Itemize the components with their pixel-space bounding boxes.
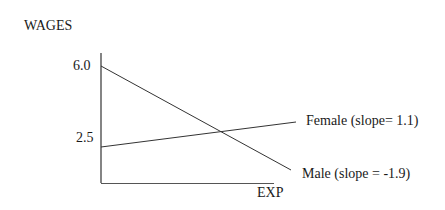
y-tick-6: 6.0 <box>73 58 91 74</box>
male-line <box>101 66 291 170</box>
male-series-label: Male (slope = -1.9) <box>302 166 410 182</box>
x-axis-label: EXP <box>257 185 283 201</box>
female-line <box>101 122 296 147</box>
female-series-label: Female (slope= 1.1) <box>306 113 418 129</box>
y-tick-2-5: 2.5 <box>76 130 94 146</box>
y-axis-label: WAGES <box>24 18 72 34</box>
